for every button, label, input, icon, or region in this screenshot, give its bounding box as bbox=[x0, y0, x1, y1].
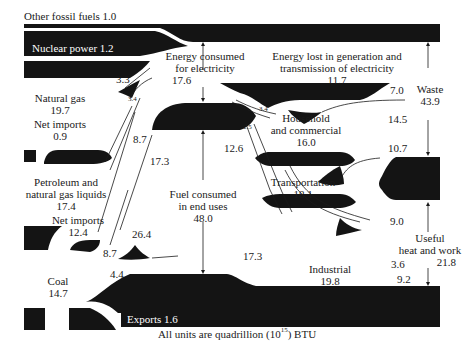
flow-label-petroleum-end-uses: 17.3 bbox=[150, 155, 169, 167]
label-end-uses: Fuel consumed in end uses 48.0 bbox=[163, 188, 243, 224]
flow-label-industrial-waste: 10.7 bbox=[388, 142, 407, 154]
flow-label-industrial-useful: 9.2 bbox=[397, 273, 411, 285]
flow-coal-junction bbox=[70, 240, 100, 252]
units-caption: All units are quadrillion (1015) BTU bbox=[0, 328, 474, 340]
label-electricity: Energy consumed for electricity 17.6 bbox=[160, 50, 250, 86]
industrial-value: 19.8 bbox=[300, 275, 360, 287]
transportation-line1: Transportation bbox=[268, 176, 338, 188]
node-waste-block bbox=[379, 157, 440, 200]
electricity-line1: Energy consumed bbox=[160, 50, 250, 62]
flow-coal-left-b bbox=[69, 308, 116, 330]
flow-petroleum-main bbox=[44, 150, 112, 164]
flow-label-gas-end-uses: 8.7 bbox=[133, 133, 147, 145]
coal-name: Coal bbox=[38, 275, 78, 287]
losses-line1: Energy lost in generation and bbox=[262, 50, 412, 62]
petroleum-value: 17.4 bbox=[20, 200, 112, 212]
industrial-line1: Industrial bbox=[300, 263, 360, 275]
petroleum-net-imports-name: Net imports bbox=[48, 214, 108, 226]
flow-label-elec-end-uses: 12.6 bbox=[224, 142, 243, 154]
end-uses-line2: in end uses bbox=[163, 200, 243, 212]
coal-value: 14.7 bbox=[38, 287, 78, 299]
label-coal: Coal 14.7 bbox=[38, 275, 78, 299]
label-gas-net-imports: Net imports 0.9 bbox=[30, 118, 90, 142]
label-losses: Energy lost in generation and transmissi… bbox=[262, 50, 412, 86]
line-coal-4-4 bbox=[152, 256, 178, 258]
flow-label-household-waste: 7.0 bbox=[390, 84, 404, 96]
gas-net-imports-name: Net imports bbox=[30, 118, 90, 130]
label-other-fossil: Other fossil fuels 1.0 bbox=[24, 10, 116, 22]
flow-label-transport-useful: 3.6 bbox=[391, 258, 405, 270]
flow-label-coal-electricity: 8.7 bbox=[103, 247, 117, 259]
end-uses-line1: Fuel consumed bbox=[163, 188, 243, 200]
flow-label-elec-household: 3.4 bbox=[259, 103, 268, 115]
flow-nuclear-2 bbox=[24, 61, 150, 78]
flow-coal-left-a bbox=[24, 308, 45, 330]
label-household: Household and commercial 16.0 bbox=[266, 112, 346, 148]
label-petroleum-net-imports: Net imports 12.4 bbox=[48, 214, 108, 238]
line-coal-26 bbox=[110, 190, 128, 245]
waste-value: 43.9 bbox=[410, 95, 450, 107]
label-exports: Exports 1.6 bbox=[127, 313, 178, 325]
gas-net-imports-value: 0.9 bbox=[30, 130, 90, 142]
flow-petroleum bbox=[24, 150, 36, 162]
label-petroleum: Petroleum and natural gas liquids 17.4 bbox=[20, 176, 112, 212]
useful-line2: heat and work bbox=[394, 244, 466, 256]
natural-gas-name: Natural gas bbox=[30, 92, 90, 104]
electricity-value: 17.6 bbox=[160, 74, 250, 86]
flow-label-coal-end-uses: 4.4 bbox=[110, 268, 124, 280]
petroleum-name-1: Petroleum and bbox=[20, 176, 112, 188]
waste-line1: Waste bbox=[410, 83, 450, 95]
flow-label-elec-transport: 2.5 bbox=[243, 121, 252, 133]
line-pet-end-1 bbox=[120, 135, 152, 230]
flow-label-household-useful: 9.0 bbox=[390, 215, 404, 227]
flow-label-end-uses-industrial: 17.3 bbox=[243, 250, 262, 262]
flow-coal-to-end-uses bbox=[86, 274, 440, 313]
household-line1: Household bbox=[266, 112, 346, 124]
label-nuclear: Nuclear power 1.2 bbox=[32, 42, 114, 54]
end-uses-value: 48.0 bbox=[163, 212, 243, 224]
household-value: 16.0 bbox=[266, 136, 346, 148]
useful-line1: Useful bbox=[394, 232, 466, 244]
flow-industrial-useful bbox=[336, 218, 362, 236]
flow-label-coal-petroleum: 26.4 bbox=[132, 228, 151, 240]
caption-suffix: ) BTU bbox=[288, 328, 316, 340]
flow-coal-wedge bbox=[118, 245, 150, 260]
line-7-0 bbox=[322, 100, 405, 112]
transportation-value: 18.1 bbox=[268, 188, 338, 200]
losses-line2: transmission of electricity bbox=[262, 62, 412, 74]
household-line2: and commercial bbox=[266, 124, 346, 136]
flow-label-transport-waste: 14.5 bbox=[388, 113, 407, 125]
label-natural-gas: Natural gas 19.7 bbox=[30, 92, 90, 116]
caption-prefix: All units are quadrillion (10 bbox=[158, 328, 281, 340]
flow-label-gas-electricity: 3.3 bbox=[116, 73, 130, 85]
natural-gas-value: 19.7 bbox=[30, 104, 90, 116]
label-waste: Waste 43.9 bbox=[410, 83, 450, 107]
electricity-line2: for electricity bbox=[160, 62, 250, 74]
petroleum-net-imports-value: 12.4 bbox=[48, 226, 108, 238]
petroleum-name-2: natural gas liquids bbox=[20, 188, 112, 200]
flow-label-petroleum-electricity: 3.4 bbox=[128, 93, 137, 105]
label-transportation: Transportation 18.1 bbox=[268, 176, 338, 200]
label-industrial: Industrial 19.8 bbox=[300, 263, 360, 287]
node-electricity-mass bbox=[152, 103, 256, 130]
caption-exponent: 15 bbox=[281, 326, 288, 334]
